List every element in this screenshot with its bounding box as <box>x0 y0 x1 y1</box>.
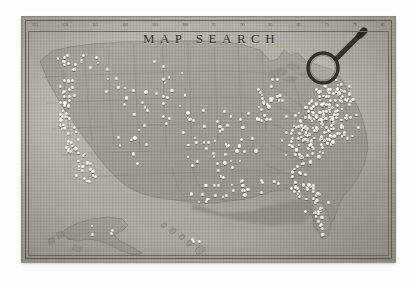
map-marker[interactable] <box>226 124 228 126</box>
map-marker[interactable] <box>323 139 326 142</box>
map-marker[interactable] <box>67 140 69 142</box>
map-marker[interactable] <box>291 145 294 148</box>
map-marker[interactable] <box>182 131 185 134</box>
map-marker[interactable] <box>348 93 351 96</box>
map-marker[interactable] <box>305 198 307 200</box>
map-marker[interactable] <box>344 117 346 119</box>
map-marker[interactable] <box>144 106 146 108</box>
map-marker[interactable] <box>80 59 82 61</box>
map-marker[interactable] <box>298 190 300 192</box>
map-marker[interactable] <box>133 136 137 140</box>
map-marker[interactable] <box>290 132 293 135</box>
map-marker[interactable] <box>349 116 351 118</box>
map-marker[interactable] <box>67 149 70 152</box>
map-marker[interactable] <box>201 193 205 197</box>
map-marker[interactable] <box>330 143 332 145</box>
map-marker[interactable] <box>73 94 76 97</box>
map-marker[interactable] <box>302 183 306 187</box>
map-marker[interactable] <box>117 136 120 139</box>
map-marker[interactable] <box>309 160 313 164</box>
map-marker[interactable] <box>260 191 263 194</box>
map-marker[interactable] <box>75 131 77 133</box>
map-marker[interactable] <box>260 108 263 111</box>
map-marker[interactable] <box>232 189 235 192</box>
map-marker[interactable] <box>224 153 227 156</box>
map-marker[interactable] <box>63 56 66 59</box>
map-marker[interactable] <box>291 175 294 178</box>
map-marker[interactable] <box>187 144 189 146</box>
map-marker[interactable] <box>322 152 324 154</box>
map-marker[interactable] <box>294 185 298 189</box>
map-marker[interactable] <box>328 91 331 94</box>
map-marker[interactable] <box>251 137 254 140</box>
map-marker[interactable] <box>278 99 280 101</box>
map-marker[interactable] <box>191 164 194 167</box>
map-marker[interactable] <box>305 131 307 133</box>
map-marker[interactable] <box>203 125 205 127</box>
map-plate[interactable]: 12512011511010510095908580757065 MAP SEA… <box>22 17 395 262</box>
map-marker[interactable] <box>225 194 228 197</box>
map-marker[interactable] <box>205 147 208 150</box>
map-marker[interactable] <box>144 90 148 94</box>
map-marker[interactable] <box>304 106 307 109</box>
map-marker[interactable] <box>357 126 360 129</box>
map-marker[interactable] <box>325 95 328 98</box>
map-marker[interactable] <box>263 114 265 116</box>
map-marker[interactable] <box>71 86 74 89</box>
map-marker[interactable] <box>311 152 314 155</box>
map-marker[interactable] <box>311 146 313 148</box>
map-marker[interactable] <box>162 102 165 105</box>
map-marker[interactable] <box>301 129 303 131</box>
map-marker[interactable] <box>166 96 169 99</box>
map-marker[interactable] <box>329 134 332 137</box>
map-marker[interactable] <box>317 90 321 94</box>
map-marker[interactable] <box>57 57 59 59</box>
map-marker[interactable] <box>65 112 68 115</box>
map-marker[interactable] <box>351 135 353 137</box>
map-marker[interactable] <box>338 132 341 135</box>
map-marker[interactable] <box>312 190 315 193</box>
map-marker[interactable] <box>63 126 67 130</box>
map-marker[interactable] <box>312 127 314 129</box>
map-marker[interactable] <box>340 89 342 91</box>
map-marker[interactable] <box>162 78 164 80</box>
map-marker[interactable] <box>86 161 90 165</box>
map-marker[interactable] <box>133 113 135 115</box>
map-marker[interactable] <box>59 118 63 122</box>
map-marker[interactable] <box>110 232 113 235</box>
map-marker[interactable] <box>63 95 66 98</box>
map-marker[interactable] <box>294 153 297 156</box>
map-marker[interactable] <box>78 165 80 167</box>
map-marker[interactable] <box>259 91 262 94</box>
map-marker[interactable] <box>291 170 295 174</box>
map-marker[interactable] <box>343 131 346 134</box>
map-marker[interactable] <box>321 146 324 149</box>
map-marker[interactable] <box>346 99 348 101</box>
map-marker[interactable] <box>105 90 108 93</box>
map-marker[interactable] <box>196 160 199 163</box>
map-marker[interactable] <box>190 192 194 196</box>
map-marker[interactable] <box>321 233 325 237</box>
map-marker[interactable] <box>153 60 156 63</box>
map-marker[interactable] <box>162 65 165 68</box>
map-marker[interactable] <box>327 201 330 204</box>
map-marker[interactable] <box>321 121 323 123</box>
map-marker[interactable] <box>143 124 146 127</box>
map-marker[interactable] <box>223 161 227 165</box>
map-marker[interactable] <box>141 101 144 104</box>
map-marker[interactable] <box>83 177 86 180</box>
map-marker[interactable] <box>325 103 328 106</box>
map-marker[interactable] <box>168 117 171 120</box>
map-marker[interactable] <box>125 96 129 100</box>
map-marker[interactable] <box>132 152 136 156</box>
map-marker[interactable] <box>204 184 208 188</box>
map-marker[interactable] <box>312 111 315 114</box>
map-marker[interactable] <box>186 111 190 115</box>
map-marker[interactable] <box>70 141 73 144</box>
map-marker[interactable] <box>81 169 84 172</box>
map-marker[interactable] <box>230 115 232 117</box>
map-marker[interactable] <box>170 89 174 93</box>
map-marker[interactable] <box>348 85 351 88</box>
map-marker[interactable] <box>355 114 357 116</box>
map-marker[interactable] <box>238 144 242 148</box>
